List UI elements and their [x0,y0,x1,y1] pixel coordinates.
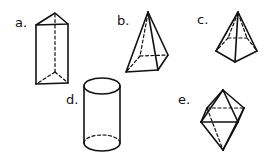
figure-c-label: c. [197,12,208,27]
figure-d-label: d. [66,92,78,107]
figure-c-pentagonal-pyramid: c. [197,12,257,62]
figure-e-octahedron: e. [178,90,244,150]
figure-b-square-pyramid: b. [117,12,168,72]
solids-diagram: a. b. c. d. [0,0,269,157]
figure-a-triangular-prism: a. [15,13,68,84]
figure-b-label: b. [117,13,129,28]
figure-d-cylinder: d. [66,78,120,151]
figure-a-label: a. [15,15,27,30]
figure-e-label: e. [178,92,190,107]
